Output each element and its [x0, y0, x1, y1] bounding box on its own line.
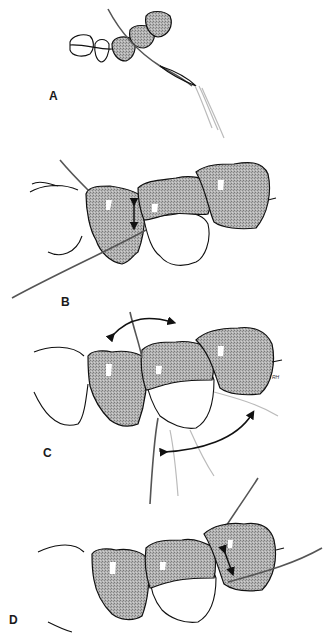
tooth-a2 — [95, 40, 109, 63]
floss-c-right — [214, 392, 278, 416]
floss-c-bottom — [150, 418, 158, 504]
tooth-d2 — [92, 549, 149, 620]
highlight-b4 — [218, 180, 224, 190]
tooth-b1-outline — [48, 236, 82, 255]
gum-line-d-right — [276, 548, 284, 550]
panel-c — [34, 312, 282, 504]
gum-line-b — [30, 182, 78, 192]
tooth-b2 — [86, 186, 145, 264]
highlight-b3 — [152, 204, 158, 212]
highlight-c3 — [156, 366, 162, 374]
tooth-b3-crown — [138, 177, 210, 220]
flossing-illustration: A B C D RH — [0, 0, 327, 633]
floss-b-bottom — [12, 230, 146, 298]
floss-end-3 — [202, 88, 224, 138]
tooth-c2 — [88, 351, 147, 426]
highlight-c2 — [106, 364, 112, 376]
tooth-b4 — [196, 163, 270, 229]
panel-d — [38, 478, 322, 632]
panel-a — [70, 9, 224, 138]
floss-c-ghost-2 — [190, 430, 214, 476]
tooth-b3-root — [144, 212, 209, 265]
panel-label-d: D — [9, 613, 18, 627]
floss-c-ghost-1 — [170, 430, 178, 496]
panel-label-a: A — [49, 89, 58, 103]
panel-label-c: C — [43, 446, 52, 460]
floss-end-2 — [199, 86, 218, 130]
panel-label-b: B — [61, 295, 70, 309]
highlight-c4 — [218, 346, 224, 356]
artist-signature: RH — [272, 374, 279, 380]
tooth-d1-outline — [38, 545, 84, 632]
highlight-d2 — [110, 562, 116, 574]
highlight-d3 — [160, 562, 166, 570]
tooth-c1-outline — [34, 347, 88, 425]
curved-arrow-c-top — [112, 319, 172, 336]
panel-b — [12, 160, 276, 298]
